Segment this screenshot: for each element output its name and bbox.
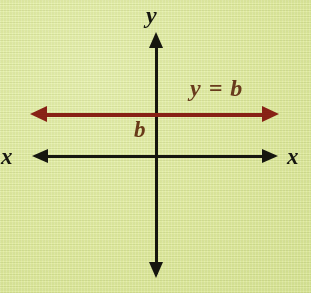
y-axis-line	[155, 44, 158, 274]
equation-label: y = b	[190, 76, 243, 100]
x-axis-right-arrowhead-icon	[262, 149, 278, 163]
line-right-arrowhead-icon	[262, 106, 279, 122]
coordinate-plane-figure: y x x b y = b	[0, 0, 311, 293]
x-axis-label-right: x	[287, 145, 299, 168]
line-left-arrowhead-icon	[30, 106, 47, 122]
horizontal-line-y-equals-b	[42, 113, 270, 117]
x-axis-left-arrowhead-icon	[32, 149, 48, 163]
y-axis-down-arrowhead-icon	[149, 262, 163, 278]
y-axis-up-arrowhead-icon	[149, 32, 163, 48]
x-axis-line	[44, 155, 272, 158]
y-intercept-label: b	[134, 118, 146, 141]
y-axis-label: y	[146, 3, 157, 27]
x-axis-label-left: x	[1, 145, 13, 168]
